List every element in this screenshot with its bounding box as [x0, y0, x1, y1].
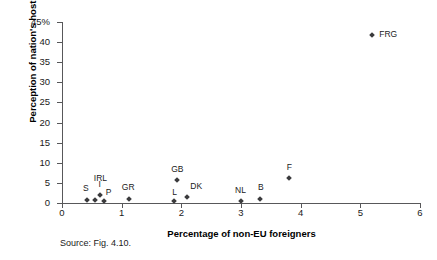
data-point-label: B	[258, 183, 264, 192]
x-axis-tick-label: 5	[348, 208, 372, 218]
y-axis-tick-label: 0	[6, 198, 50, 207]
x-axis-tick-label: 1	[110, 208, 134, 218]
data-point-label: FRG	[379, 30, 397, 39]
scatter-plot-area: SIRLIPGRGBLDKNLBFFRG	[62, 22, 420, 203]
x-axis-tick-label: 0	[50, 208, 74, 218]
data-point-label: NL	[235, 186, 246, 195]
data-point-marker	[369, 32, 375, 38]
data-point-marker	[286, 175, 292, 181]
data-point-marker	[184, 194, 190, 200]
figure-container: 051015202530354045% 0123456 SIRLIPGRGBLD…	[0, 0, 437, 260]
data-point-marker	[238, 198, 244, 204]
data-point-marker	[97, 192, 103, 198]
data-point-label: L	[172, 188, 177, 197]
data-point-marker	[257, 196, 263, 202]
y-axis-tick-label: 5	[6, 178, 50, 187]
data-point-marker	[171, 198, 177, 204]
data-point-label: DK	[190, 182, 202, 191]
data-point-marker	[126, 197, 132, 203]
source-note: Source: Fig. 4.10.	[60, 238, 131, 248]
data-point-marker	[84, 197, 90, 203]
x-axis-tick-label: 3	[229, 208, 253, 218]
data-point-label: S	[83, 184, 89, 193]
y-axis-title: Perception of nation's hostility	[27, 0, 38, 149]
data-point-marker	[92, 197, 98, 203]
data-point-label: I	[99, 180, 101, 189]
y-axis-tick-label: 10	[6, 158, 50, 167]
data-point-label: GR	[122, 183, 135, 192]
x-axis-tick-label: 6	[408, 208, 432, 218]
data-point-label: GB	[171, 165, 183, 174]
x-axis-tick-label: 4	[289, 208, 313, 218]
x-axis-tick-label: 2	[169, 208, 193, 218]
data-point-marker	[174, 177, 180, 183]
data-point-label: F	[287, 163, 292, 172]
data-point-label: P	[106, 188, 112, 197]
